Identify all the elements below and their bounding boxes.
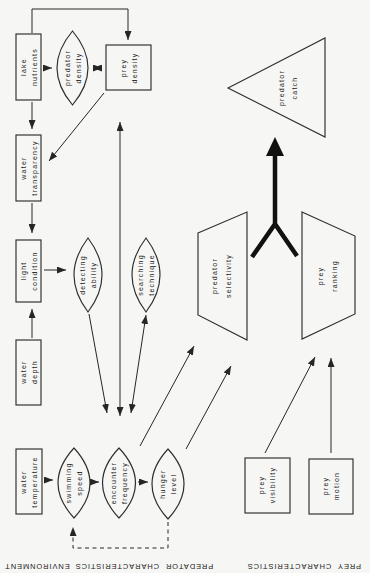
prey-density-label: prey density: [118, 52, 139, 83]
predator-selectivity-label: predator selectivity: [208, 254, 236, 298]
arrow-prey-density-to-water-transparency: [49, 93, 104, 161]
prey-visibility-label: prey visibility: [257, 467, 278, 504]
prey-ranking-label: prey ranking: [314, 260, 342, 292]
section-predator-characteristics-label: PREDATOR CHARACTERISTICS: [75, 562, 214, 571]
predator-density-label: predator density: [62, 50, 83, 86]
water-temperature-label: water temperature: [19, 456, 40, 508]
water-depth-label: water depth: [18, 360, 39, 384]
water-transparency-label: water transparency: [18, 140, 39, 195]
arrow-encounter-frequency-to-predator-selectivity: [140, 346, 194, 446]
lake-nutrients-label: lake nutrients: [18, 48, 39, 86]
hunger-level-label: hunger level: [158, 469, 179, 498]
arrow-detecting-ability-to-encounter-frequency: [89, 314, 107, 413]
predator-catch-label: predator catch: [275, 70, 301, 106]
merge-arrowhead: [266, 137, 284, 156]
searching-technique-label: searching technique: [136, 254, 157, 296]
merge-arrow-selectivity-ranking-to-catch: [252, 154, 297, 257]
light-condition-label: light condition: [18, 251, 39, 290]
section-environment-label: ENVIRONMENT: [4, 562, 69, 571]
arrow-hunger-level-to-swimming-speed-feedback-dashed: [73, 522, 168, 548]
arrow-hunger-level-to-predator-selectivity: [186, 366, 231, 449]
arrow-lake-nutrients-to-prey-density: [32, 9, 128, 40]
arrow-prey-visibility-to-prey-ranking: [265, 357, 315, 453]
section-prey-characteristics-label: PREY CHARACTERISTICS: [247, 562, 361, 571]
flow-diagram-figure: lake nutrients predator density prey den…: [0, 0, 370, 573]
encounter-frequency-label: encounter frequency: [109, 462, 130, 504]
prey-motion-label: prey motion: [321, 472, 342, 501]
arrow-searching-technique-encounter-frequency-double: [131, 315, 146, 413]
swimming-speed-label: swimming speed: [64, 462, 85, 503]
detecting-ability-label: detecting ability: [78, 255, 99, 295]
